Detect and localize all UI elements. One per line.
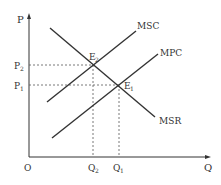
externality-diagram: MSC MPC MSR P Q O E 2 E 1 P 2 P 1 Q 2 Q … bbox=[0, 0, 221, 185]
p2-sub: 2 bbox=[20, 65, 24, 72]
q1-sub: 1 bbox=[120, 167, 124, 174]
msc-label: MSC bbox=[137, 21, 159, 31]
q1-label-group: Q 1 bbox=[113, 163, 124, 174]
guide-lines bbox=[29, 65, 119, 157]
point-e2: E 2 bbox=[89, 52, 99, 63]
curves bbox=[47, 28, 158, 138]
x-axis-label: Q bbox=[204, 162, 212, 173]
y-axis-label: P bbox=[17, 14, 24, 25]
msr-label: MSR bbox=[159, 116, 181, 126]
point-e1: E 1 bbox=[124, 81, 134, 92]
q2-label-group: Q 2 bbox=[88, 163, 99, 174]
e2-sub: 2 bbox=[95, 56, 99, 63]
mpc-label: MPC bbox=[160, 48, 182, 58]
p2-label-group: P 2 bbox=[14, 61, 24, 72]
msc-curve bbox=[47, 31, 136, 102]
q2-sub: 2 bbox=[95, 167, 99, 174]
p1-label-group: P 1 bbox=[14, 81, 24, 92]
p1-sub: 1 bbox=[20, 85, 24, 92]
mpc-curve bbox=[52, 54, 158, 138]
x-axis-arrow-icon bbox=[205, 155, 211, 159]
origin-label: O bbox=[24, 163, 31, 173]
e1-sub: 1 bbox=[130, 85, 134, 92]
msr-curve bbox=[50, 28, 155, 117]
y-axis-arrow-icon bbox=[27, 13, 31, 19]
